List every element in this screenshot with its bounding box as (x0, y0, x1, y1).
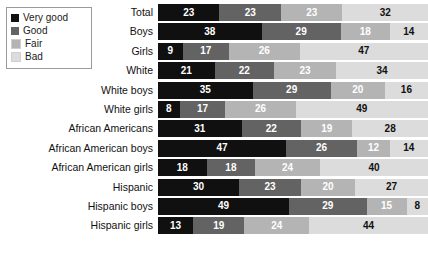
bar-segment: 9 (158, 43, 183, 60)
bar-segment: 16 (385, 82, 428, 99)
bar-segment: 12 (357, 140, 390, 157)
bar-segment-value: 29 (286, 85, 297, 95)
bar-segment: 17 (183, 43, 229, 60)
bar-segment: 29 (262, 23, 341, 40)
bar-segment-value: 14 (403, 27, 414, 37)
stacked-bar: 23232332 (158, 4, 428, 21)
chart-row: White girls8172649 (0, 101, 428, 118)
bar-segment: 40 (320, 159, 428, 176)
bar-segment: 31 (158, 120, 242, 137)
bar-segment: 29 (253, 82, 331, 99)
bar-segment-value: 29 (296, 27, 307, 37)
bar-segment: 38 (158, 23, 262, 40)
bar-segment: 20 (301, 179, 355, 196)
chart-row: Girls9172647 (0, 43, 428, 60)
bar-segment: 24 (244, 217, 309, 234)
bar-segment-value: 16 (401, 85, 412, 95)
bar-segment: 23 (158, 4, 219, 21)
bar-segment-value: 27 (386, 182, 397, 192)
stacked-bar: 38291814 (158, 23, 428, 40)
category-label: Girls (0, 46, 158, 57)
chart-row: Hispanic boys4929158 (0, 198, 428, 215)
bar-segment: 26 (286, 140, 357, 157)
bar-segment-value: 44 (363, 221, 374, 231)
bar-segment-value: 38 (204, 27, 215, 37)
chart-row: Hispanic girls13192444 (0, 217, 428, 234)
stacked-bar: 8172649 (158, 101, 428, 118)
bar-segment-value: 23 (264, 182, 275, 192)
bar-segment-value: 8 (166, 104, 172, 114)
bar-segment: 14 (390, 23, 428, 40)
bar-segment: 30 (158, 179, 239, 196)
bar-segment-value: 15 (381, 201, 392, 211)
bar-segment: 49 (158, 198, 289, 215)
bar-segment: 27 (355, 179, 428, 196)
bar-segment: 18 (207, 159, 256, 176)
bar-segment: 35 (158, 82, 253, 99)
bar-segment: 15 (367, 198, 407, 215)
stacked-bar: 47261214 (158, 140, 428, 157)
bar-segment: 22 (242, 120, 301, 137)
category-label: African American girls (0, 162, 158, 173)
bar-segment-value: 13 (170, 221, 181, 231)
stacked-bar: 35292016 (158, 82, 428, 99)
bar-segment-value: 19 (213, 221, 224, 231)
bar-segment-value: 47 (358, 46, 369, 56)
bar-segment-value: 22 (266, 124, 277, 134)
category-label: Total (0, 7, 158, 18)
bar-segment: 8 (158, 101, 180, 118)
bar-segment: 23 (281, 4, 342, 21)
bar-segment: 18 (341, 23, 390, 40)
bar-segment-value: 23 (306, 8, 317, 18)
stacked-bar: 31221928 (158, 120, 428, 137)
category-label: Hispanic girls (0, 220, 158, 231)
bar-segment-value: 26 (316, 143, 327, 153)
bar-segment-value: 26 (259, 46, 270, 56)
bar-segment: 22 (215, 62, 274, 79)
stacked-bar: 9172647 (158, 43, 428, 60)
bar-segment: 29 (289, 198, 367, 215)
bar-segment-value: 12 (368, 143, 379, 153)
bar-segment-value: 34 (377, 66, 388, 76)
bar-segment: 13 (158, 217, 193, 234)
category-label: African Americans (0, 123, 158, 134)
chart-row: Boys38291814 (0, 23, 428, 40)
bar-segment-value: 35 (200, 85, 211, 95)
bar-segment: 17 (180, 101, 226, 118)
bar-segment-value: 21 (181, 66, 192, 76)
bar-segment-value: 23 (300, 66, 311, 76)
bar-segment: 14 (390, 140, 428, 157)
bar-segment-value: 29 (322, 201, 333, 211)
bar-segment-value: 23 (245, 8, 256, 18)
stacked-bar: 18182440 (158, 159, 428, 176)
bar-segment: 24 (255, 159, 320, 176)
bar-segment: 23 (219, 4, 280, 21)
bar-segment-value: 20 (352, 85, 363, 95)
chart-row: African American girls18182440 (0, 159, 428, 176)
bar-segment: 26 (229, 43, 300, 60)
bar-segment: 28 (352, 120, 428, 137)
bar-segment-value: 19 (321, 124, 332, 134)
bar-segment: 21 (158, 62, 215, 79)
category-label: Hispanic boys (0, 201, 158, 212)
bar-segment-value: 47 (217, 143, 228, 153)
category-label: White girls (0, 104, 158, 115)
bar-segment-value: 17 (197, 104, 208, 114)
bar-segment-value: 22 (239, 66, 250, 76)
chart-row: White21222334 (0, 62, 428, 79)
bar-segment-value: 9 (167, 46, 173, 56)
category-label: White boys (0, 85, 158, 96)
bar-segment: 19 (301, 120, 352, 137)
chart-plot-area: Total23232332Boys38291814Girls9172647Whi… (0, 4, 428, 237)
bar-segment-value: 30 (193, 182, 204, 192)
bar-segment-value: 18 (177, 163, 188, 173)
bar-segment-value: 49 (218, 201, 229, 211)
bar-segment-value: 24 (282, 163, 293, 173)
bar-segment-value: 31 (194, 124, 205, 134)
bar-segment-value: 40 (368, 163, 379, 173)
category-label: Hispanic (0, 182, 158, 193)
bar-segment: 34 (336, 62, 428, 79)
chart-root: Very goodGoodFairBad Total23232332Boys38… (0, 0, 428, 259)
chart-row: White boys35292016 (0, 82, 428, 99)
bar-segment-value: 49 (356, 104, 367, 114)
